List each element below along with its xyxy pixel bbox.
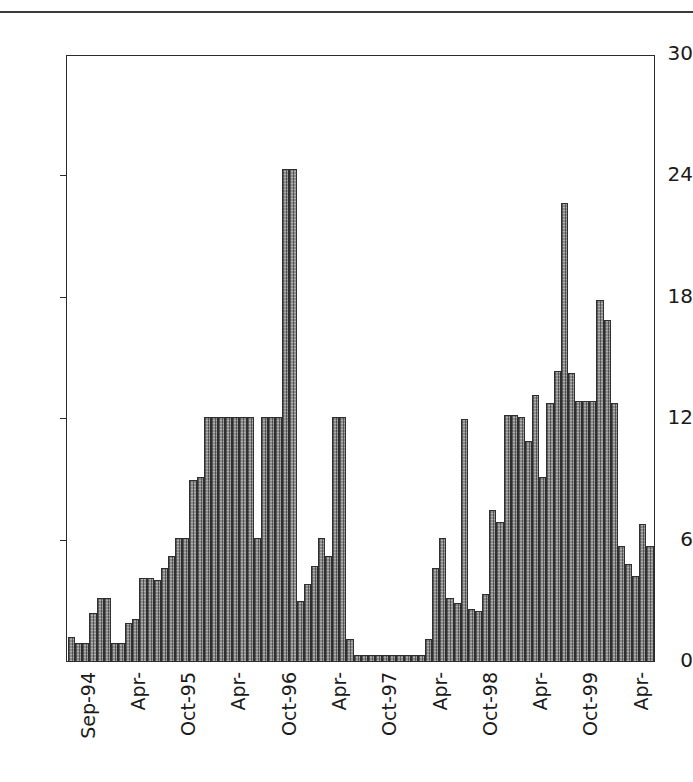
bar: [632, 576, 639, 661]
bar: [468, 609, 475, 661]
bar: [604, 320, 611, 661]
bar: [454, 603, 461, 661]
bar: [168, 556, 175, 661]
x-axis-label: Oct-99: [581, 672, 600, 736]
bar: [254, 538, 261, 661]
bar-series: [68, 56, 654, 661]
bar: [532, 395, 539, 661]
y-axis-tick: [60, 540, 67, 541]
bar: [496, 522, 503, 661]
x-axis-label: Oct-95: [179, 672, 198, 736]
bar: [197, 477, 204, 661]
bar: [475, 611, 482, 661]
bar: [282, 169, 289, 661]
figure-container: 0612182430 Sep-94Apr-Oct-95Apr-Oct-96Apr…: [0, 0, 693, 782]
bar: [561, 203, 568, 661]
x-axis-label: Apr-: [531, 672, 550, 711]
bar: [311, 566, 318, 661]
bar: [646, 546, 653, 661]
bar: [546, 403, 553, 661]
bar: [204, 417, 211, 661]
bar: [446, 598, 453, 661]
bar: [389, 655, 396, 661]
bar: [354, 655, 361, 661]
bar: [589, 401, 596, 661]
bar: [154, 580, 161, 661]
bar: [104, 598, 111, 661]
bar: [611, 403, 618, 661]
bar: [582, 401, 589, 661]
bar: [297, 601, 304, 662]
bar: [75, 643, 82, 661]
bar: [618, 546, 625, 661]
bar: [539, 477, 546, 661]
page-top-rule: [0, 11, 693, 13]
x-axis-label: Oct-97: [380, 672, 399, 736]
bar: [211, 417, 218, 661]
bar: [575, 401, 582, 661]
bar: [68, 637, 75, 661]
x-axis-label: Oct-98: [481, 672, 500, 736]
bar: [489, 510, 496, 661]
bar: [361, 655, 368, 661]
bar: [225, 417, 232, 661]
bar: [418, 655, 425, 661]
bar: [396, 655, 403, 661]
bar: [432, 568, 439, 661]
bar: [596, 300, 603, 661]
bar: [511, 415, 518, 661]
x-axis-label: Apr-: [129, 672, 148, 711]
bar: [261, 417, 268, 661]
bar: [189, 480, 196, 662]
bar: [554, 371, 561, 661]
bar: [147, 578, 154, 661]
bar: [325, 556, 332, 661]
bar: [461, 419, 468, 661]
y-axis-tick: [60, 297, 67, 298]
x-axis-label: Oct-96: [280, 672, 299, 736]
bar: [504, 415, 511, 661]
bar: [89, 613, 96, 661]
bar: [268, 417, 275, 661]
bar: [518, 417, 525, 661]
bar: [304, 584, 311, 661]
bar: [346, 639, 353, 661]
bar: [275, 417, 282, 661]
bar: [97, 598, 104, 661]
bar: [289, 169, 296, 661]
bar: [125, 623, 132, 661]
bar: [639, 524, 646, 661]
bar: [132, 619, 139, 661]
bar: [247, 417, 254, 661]
bar: [411, 655, 418, 661]
bar: [161, 568, 168, 661]
x-axis-label: Apr-: [632, 672, 651, 711]
bar: [139, 578, 146, 661]
bar: [232, 417, 239, 661]
bar: [182, 538, 189, 661]
bar: [332, 417, 339, 661]
bar: [404, 655, 411, 661]
x-axis-label: Sep-94: [79, 672, 98, 739]
x-axis-label: Apr-: [229, 672, 248, 711]
bar: [439, 538, 446, 661]
y-axis-tick: [60, 175, 67, 176]
y-axis-tick: [60, 418, 67, 419]
bar: [175, 538, 182, 661]
bar: [218, 417, 225, 661]
x-axis-label: Apr-: [330, 672, 349, 711]
bar: [368, 655, 375, 661]
bar: [568, 373, 575, 661]
bar: [118, 643, 125, 661]
bar: [111, 643, 118, 661]
bar: [625, 564, 632, 661]
bar: [239, 417, 246, 661]
x-axis-label: Apr-: [431, 672, 450, 711]
bar: [425, 639, 432, 661]
bar: [82, 643, 89, 661]
bar: [339, 417, 346, 661]
bar: [482, 594, 489, 661]
bar: [318, 538, 325, 661]
bar: [525, 441, 532, 661]
bar: [375, 655, 382, 661]
